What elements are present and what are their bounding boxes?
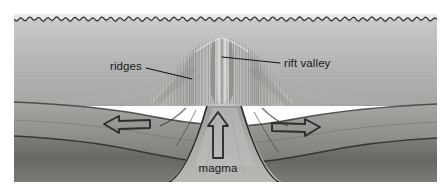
- seafloor-spreading-figure: ridges rift valley magma: [0, 0, 443, 193]
- label-magma: magma: [199, 162, 238, 174]
- label-rift-valley: rift valley: [284, 57, 331, 69]
- label-ridges: ridges: [110, 60, 142, 72]
- mid-ocean-ridge-massif: [118, 34, 326, 110]
- illustration-plate: ridges rift valley magma: [14, 14, 437, 182]
- diagram-canvas: ridges rift valley magma: [0, 0, 443, 193]
